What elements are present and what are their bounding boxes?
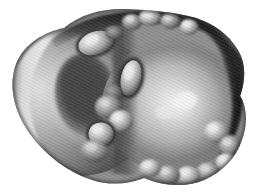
surface-render-svg	[0, 0, 254, 196]
image-canvas: 3D rendered grayscale surface reconstruc…	[0, 0, 254, 196]
